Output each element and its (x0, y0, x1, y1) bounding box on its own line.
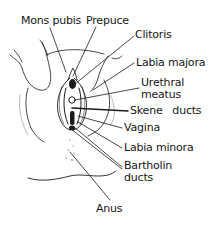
label-labia-majora: Labia majora (136, 57, 205, 69)
perineum-stipple (65, 139, 74, 161)
label-anus: Anus (96, 203, 122, 215)
label-prepuce: Prepuce (86, 15, 129, 27)
left-thigh-outline (10, 42, 51, 142)
label-labia-minora: Labia minora (124, 142, 193, 154)
label-vagina: Vagina (124, 122, 160, 134)
label-urethral-meatus-line2: meatus (141, 89, 181, 101)
mons-contour (46, 50, 104, 55)
gluteal-fold (28, 171, 116, 180)
label-mons-pubis: Mons pubis (21, 15, 81, 27)
right-thigh-outline (88, 56, 122, 136)
label-bartholin-ducts-line2: ducts (124, 172, 153, 184)
urethral-meatus-shape (69, 97, 75, 103)
vaginal-opening-shape (70, 111, 75, 125)
label-clitoris: Clitoris (135, 29, 172, 41)
label-skene-ducts: Skene ducts (130, 105, 201, 117)
